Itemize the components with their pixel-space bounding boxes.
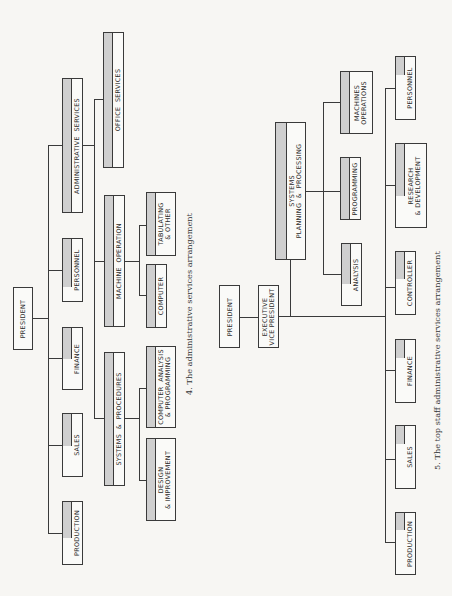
- box-label: SALES: [406, 446, 413, 468]
- fig4-office-services-box: OFFICE SERVICES: [103, 32, 124, 168]
- connector: [385, 287, 395, 288]
- fig5-machines-operations-box: MACHINES OPERATIONS: [340, 71, 373, 134]
- connector: [290, 260, 291, 316]
- connector: [323, 102, 340, 103]
- box-label: FINANCE: [73, 343, 80, 373]
- connector: [48, 445, 62, 446]
- shade-bar: [105, 353, 114, 485]
- fig5-programming-box: PROGRAMMING: [340, 157, 361, 220]
- shade-bar: [104, 33, 113, 167]
- connector: [139, 225, 140, 295]
- shade-bar: [396, 57, 405, 75]
- fig4-spine: [48, 145, 49, 534]
- connector: [139, 225, 146, 226]
- shade-bar: [63, 414, 72, 446]
- shade-bar: [147, 193, 156, 255]
- fig4-president-box: PRESIDENT: [13, 287, 33, 350]
- shade-bar: [396, 513, 405, 530]
- connector: [48, 270, 62, 271]
- fig4-administrative-services-box: ADMINISTRATIVE SERVICES: [62, 78, 83, 213]
- connector: [139, 480, 146, 481]
- fig4-president-label: PRESIDENT: [20, 299, 27, 338]
- box-label: PERSONNEL: [406, 67, 413, 108]
- fig5-president-box: PRESIDENT: [219, 285, 240, 348]
- box-label: FINANCE: [406, 356, 413, 386]
- box-label: COMPUTER: [157, 277, 164, 315]
- fig5-executive-vp-box: EXECUTIVE VICE PRESIDENT: [258, 285, 279, 348]
- fig4-systems-procedures-box: SYSTEMS & PROCEDURES: [104, 352, 125, 486]
- box-label: RESEARCH & DEVELOPMENT: [408, 156, 422, 215]
- connector: [240, 317, 258, 318]
- fig4-caption: 4. The administrative services arrangeme…: [184, 213, 194, 395]
- box-label: CONTROLLER: [406, 260, 413, 306]
- box-label: SYSTEMS & PROCEDURES: [115, 372, 122, 465]
- shade-bar: [147, 265, 156, 327]
- fig5-systems-planning-box: SYSTEMS PLANNING & PROCESSING: [275, 122, 306, 260]
- shade-bar: [341, 72, 350, 133]
- connector: [94, 418, 104, 419]
- shade-bar: [147, 439, 156, 520]
- box-label: SYSTEMS PLANNING & PROCESSING: [289, 144, 303, 239]
- connector: [33, 318, 48, 319]
- connector: [94, 99, 103, 100]
- shade-bar: [63, 239, 72, 287]
- shade-bar: [105, 196, 114, 326]
- shade-bar: [63, 328, 72, 359]
- fig5-analysis-box: ANALYSIS: [341, 243, 362, 306]
- connector: [139, 388, 146, 389]
- connector: [323, 102, 324, 275]
- shade-bar: [396, 252, 405, 279]
- shade-bar: [341, 158, 350, 219]
- fig5-production-box: PRODUCTION: [395, 512, 416, 575]
- connector: [48, 533, 62, 534]
- fig4-production-box: PRODUCTION: [62, 501, 83, 565]
- connector: [385, 459, 395, 460]
- book-page: PRESIDENT ADMINISTRATIVE SERVICES PERSON…: [0, 0, 452, 596]
- fig5-sales-box: SALES: [395, 425, 416, 489]
- fig4-computer-box: COMPUTER: [146, 264, 167, 328]
- fig5-controller-box: CONTROLLER: [395, 251, 416, 315]
- box-label: DESIGN & IMPROVEMENT: [158, 450, 172, 508]
- box-label: ADMINISTRATIVE SERVICES: [73, 98, 80, 194]
- fig4-design-improvement-box: DESIGN & IMPROVEMENT: [146, 438, 176, 521]
- box-label: PERSONNEL: [73, 249, 80, 290]
- fig5-caption: 5. The top staff administrative services…: [432, 251, 442, 470]
- connector: [139, 295, 146, 296]
- shade-bar: [396, 144, 405, 196]
- box-label: COMPUTER ANALYSIS & PROGRAMMING: [158, 349, 172, 425]
- shade-bar: [396, 340, 405, 358]
- connector: [125, 418, 139, 419]
- connector: [323, 274, 341, 275]
- box-label: OFFICE SERVICES: [114, 69, 121, 132]
- shade-bar: [276, 123, 287, 259]
- fig5-spine: [385, 88, 386, 543]
- shade-bar: [147, 347, 156, 427]
- connector: [385, 370, 395, 371]
- fig4-tabulating-box: TABULATING & OTHER: [146, 192, 176, 256]
- connector: [139, 388, 140, 480]
- fig4-computer-analysis-box: COMPUTER ANALYSIS & PROGRAMMING: [146, 346, 176, 428]
- fig5-executive-vp-label: EXECUTIVE VICE PRESIDENT: [262, 288, 276, 345]
- connector: [125, 261, 139, 262]
- fig4-machine-operation-box: MACHINE OPERATION: [104, 195, 125, 327]
- fig5-research-development-box: RESEARCH & DEVELOPMENT: [395, 143, 427, 228]
- fig4-personnel-box: PERSONNEL: [62, 238, 83, 302]
- box-label: PROGRAMMING: [351, 162, 358, 215]
- connector: [279, 316, 385, 317]
- connector: [83, 145, 94, 146]
- shade-bar: [342, 244, 351, 284]
- fig5-personnel-box: PERSONNEL: [395, 56, 416, 120]
- fig4-finance-box: FINANCE: [62, 327, 83, 390]
- fig5-president-label: PRESIDENT: [226, 297, 233, 336]
- box-label: SALES: [73, 434, 80, 456]
- connector: [385, 542, 395, 543]
- box-label: MACHINE OPERATION: [115, 223, 122, 299]
- fig5-finance-box: FINANCE: [395, 339, 416, 403]
- connector: [94, 261, 104, 262]
- shade-bar: [63, 502, 72, 538]
- connector: [385, 88, 395, 89]
- box-label: PRODUCTION: [406, 521, 413, 567]
- box-label: ANALYSIS: [352, 258, 359, 291]
- connector: [48, 358, 62, 359]
- fig4-sales-box: SALES: [62, 413, 83, 477]
